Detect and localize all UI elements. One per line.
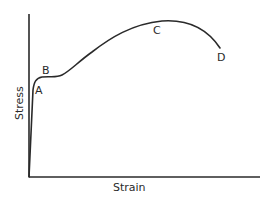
point-label-a: A	[35, 84, 43, 97]
point-label-c: C	[153, 24, 161, 37]
stress-strain-diagram: A B C D Stress Strain	[0, 0, 272, 202]
x-axis-label: Strain	[113, 181, 146, 194]
point-label-b: B	[42, 64, 50, 77]
point-label-d: D	[217, 51, 225, 64]
y-axis-label: Stress	[13, 86, 26, 120]
stress-strain-curve	[29, 21, 220, 177]
